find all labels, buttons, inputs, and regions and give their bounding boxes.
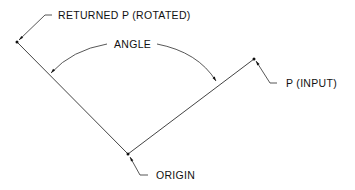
input-point: [253, 58, 256, 61]
returned-p-label: RETURNED P (ROTATED): [58, 9, 191, 21]
origin-label: ORIGIN: [156, 169, 195, 181]
angle-label: ANGLE: [114, 38, 151, 50]
angle-arc-right: [157, 44, 216, 81]
rotation-diagram: RETURNED P (ROTATED) ANGLE P (INPUT) ORI…: [0, 0, 355, 190]
returned-p-leader: [19, 15, 52, 40]
angle-arc-left: [51, 44, 107, 73]
p-input-leader: [256, 61, 277, 83]
origin-point: [127, 153, 130, 156]
returned-point: [16, 41, 19, 44]
p-input-label: P (INPUT): [286, 77, 337, 89]
input-vector-line: [128, 59, 254, 154]
returned-vector-line: [17, 42, 128, 154]
origin-leader: [130, 157, 148, 175]
